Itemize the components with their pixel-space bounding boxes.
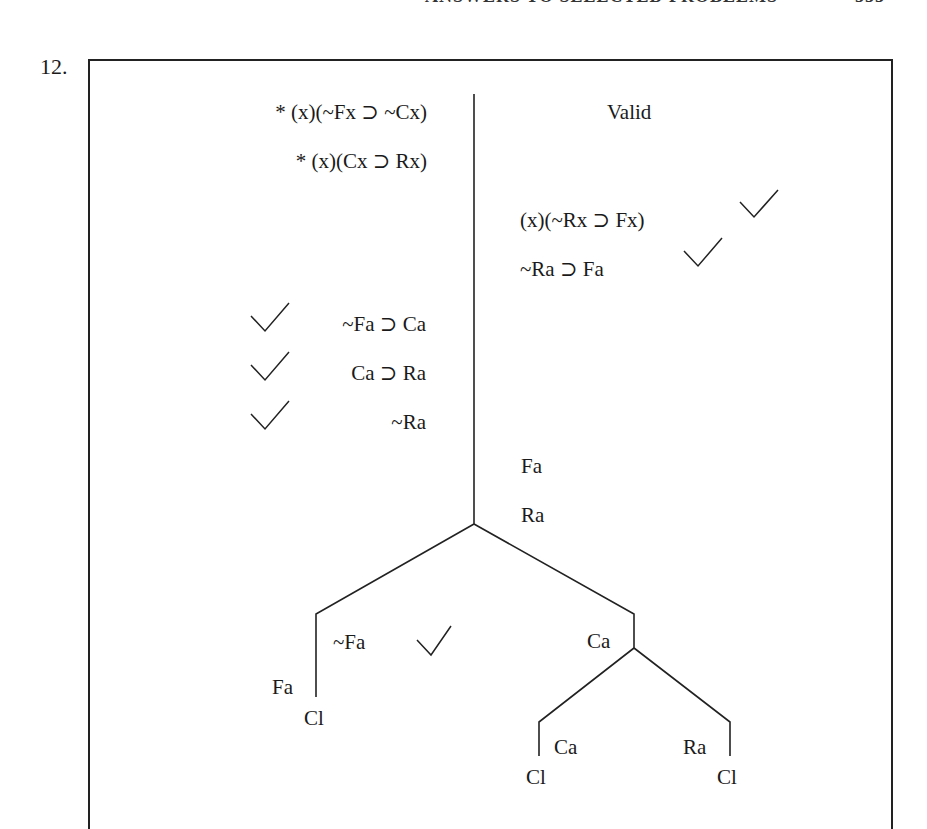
left-branch-label: ~Fa [333,630,365,654]
left-branch-line [316,524,474,697]
check-icon [251,401,289,429]
negated-conclusion: (x)(~Rx ⊃ Fx) [520,208,645,232]
instance-1: ~Fa ⊃ Ca [342,312,426,336]
right-sub-right-line [634,648,730,756]
sub-left-closure: Cl [526,765,546,789]
premise-2: * (x)(Cx ⊃ Rx) [296,149,427,173]
atom-fa: Fa [521,454,542,478]
check-icons [251,190,778,655]
conclusion-instance: ~Ra ⊃ Fa [520,257,604,281]
check-icon [251,303,289,331]
instance-3: ~Ra [391,410,426,434]
sub-right-label: Ra [683,735,706,759]
check-icon [740,190,778,217]
check-icon [417,626,451,655]
sub-right-closure: Cl [717,765,737,789]
instance-2: Ca ⊃ Ra [351,361,426,385]
check-icon [251,352,289,380]
premise-1: * (x)(~Fx ⊃ ~Cx) [275,100,427,124]
check-icon [684,238,722,266]
sub-left-label: Ca [554,735,577,759]
right-branch-label: Ca [587,629,610,653]
verdict-label: Valid [607,100,651,124]
left-branch-fa: Fa [272,675,293,699]
left-branch-closure: Cl [304,706,324,730]
atom-ra: Ra [521,503,544,527]
